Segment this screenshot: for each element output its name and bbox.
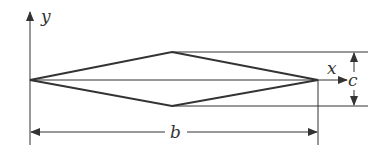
- x-axis-label: x: [327, 58, 337, 78]
- rhombus-shape: [30, 52, 318, 106]
- rhombus-diagram: y x c b: [0, 0, 382, 149]
- c-dimension-label: c: [348, 70, 358, 90]
- b-dimension-label: b: [170, 122, 181, 142]
- y-axis-label: y: [40, 6, 51, 26]
